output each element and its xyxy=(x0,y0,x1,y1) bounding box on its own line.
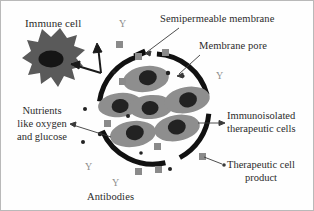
label-semipermeable-membrane: Semipermeable membrane xyxy=(160,13,274,25)
label-therapeutic-product-line2: product xyxy=(227,171,295,184)
immune-cell-graphic xyxy=(22,28,85,87)
therapeutic-product-square xyxy=(162,49,169,56)
antibody-mark: Y xyxy=(216,71,223,81)
label-nutrients-line3: and glucose xyxy=(11,130,73,143)
therapeutic-cell xyxy=(108,118,157,150)
label-membrane-pore: Membrane pore xyxy=(199,40,267,52)
nutrient-dot xyxy=(112,70,116,74)
therapeutic-product-square xyxy=(135,168,142,175)
therapeutic-product-square xyxy=(135,53,142,60)
nutrient-dot xyxy=(126,114,130,118)
arrow-up-head xyxy=(93,43,102,53)
therapeutic-product-square xyxy=(104,120,111,127)
label-immunoisolated-cells-line1: Immunoisolated xyxy=(227,109,296,122)
leader-therapeutic-product-head xyxy=(222,163,226,167)
nutrient-dot xyxy=(83,107,87,111)
label-therapeutic-product-line1: Therapeutic cell xyxy=(227,158,295,171)
label-immunoisolated-cells: Immunoisolated therapeutic cells xyxy=(227,109,296,135)
immune-cell-nucleus xyxy=(39,51,64,68)
leader-semipermeable-membrane xyxy=(147,28,179,52)
antibody-mark: Y xyxy=(112,178,119,188)
label-therapeutic-product: Therapeutic cell product xyxy=(227,158,295,184)
therapeutic-product-square xyxy=(199,153,206,160)
label-nutrients-line2: like oxygen xyxy=(11,117,73,130)
leader-therapeutic-product xyxy=(204,157,222,164)
label-nutrients-line1: Nutrients xyxy=(11,104,73,117)
nutrient-dot xyxy=(166,71,170,75)
leader-semipermeable-membrane-head xyxy=(145,51,151,56)
label-antibodies: Antibodies xyxy=(87,191,134,203)
antibody-mark: Y xyxy=(119,19,126,29)
nutrient-dot xyxy=(81,140,85,144)
nutrient-dot xyxy=(168,167,172,171)
leader-membrane-pore-head xyxy=(177,73,183,78)
leader-immunoisolated-cells-head xyxy=(219,121,225,126)
therapeutic-product-square xyxy=(155,166,162,173)
label-immune-cell: Immune cell xyxy=(25,17,81,30)
therapeutic-cell xyxy=(121,63,170,95)
therapeutic-product-square xyxy=(154,143,161,150)
therapeutic-product-square xyxy=(116,41,123,48)
therapeutic-product-square xyxy=(119,78,126,85)
therapeutic-cells-layer xyxy=(97,63,212,150)
figure-frame: Immune cell Semipermeable membrane Membr… xyxy=(0,0,314,211)
antibody-mark: Y xyxy=(85,162,92,172)
label-nutrients: Nutrients like oxygen and glucose xyxy=(11,104,73,143)
nutrient-dot xyxy=(139,151,143,155)
label-immunoisolated-cells-line2: therapeutic cells xyxy=(227,122,296,135)
